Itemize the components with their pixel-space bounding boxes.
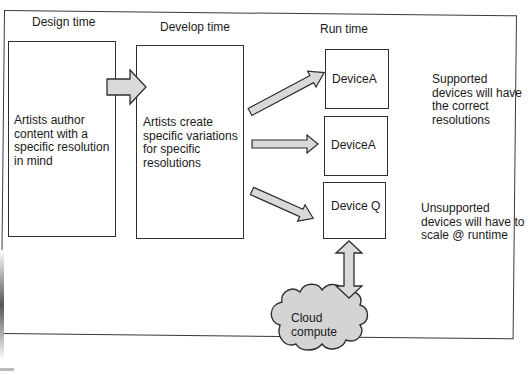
bidirectional-arrow-icon xyxy=(336,241,362,298)
arrow-to-device-a1-icon xyxy=(246,65,329,120)
diagram-arrows xyxy=(0,0,528,375)
cloud-label-line2: compute xyxy=(291,326,337,340)
cloud-label-line1: Cloud xyxy=(291,312,322,326)
caption-fragment xyxy=(0,368,14,371)
arrow-design-to-develop-icon xyxy=(107,70,146,104)
arrow-to-device-a2-icon xyxy=(252,135,318,153)
arrow-to-device-q-icon xyxy=(248,183,317,227)
